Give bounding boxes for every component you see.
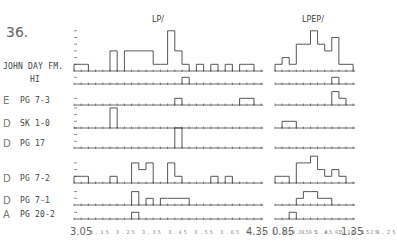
lpep-axis-end-label: 1.35 — [341, 226, 363, 237]
lpep-axis-start-label: 0.85 — [272, 226, 294, 237]
lp-axis-start-label: 3.05 — [70, 226, 92, 237]
lpep-axis-tick-labels: 0.95 1.05 1.15 1.25 — [292, 229, 380, 235]
lp-axis-end-label: 4.35 — [246, 226, 268, 237]
